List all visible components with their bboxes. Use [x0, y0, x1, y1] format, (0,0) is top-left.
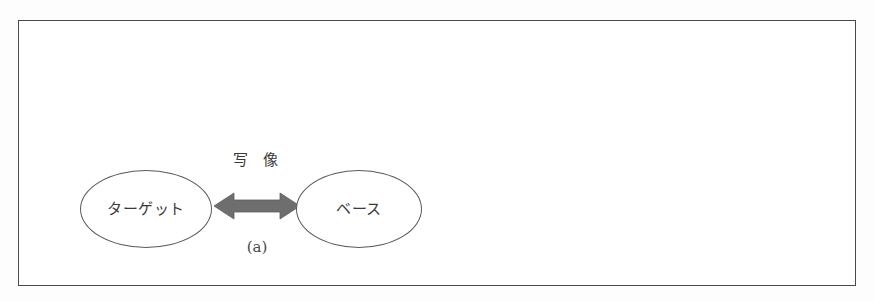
panel-a: ターゲット 写 像 ベース (a): [18, 0, 438, 302]
ellipse-base-a: ベース: [296, 170, 422, 248]
double-headed-horizontal-arrow-icon: [214, 190, 300, 222]
mapping-relation-label: 写 像: [210, 148, 300, 169]
ellipse-target-a: ターゲット: [80, 170, 212, 248]
caption-a: (a): [214, 238, 300, 256]
ellipse-base-a-label: ベース: [336, 202, 382, 217]
ellipse-target-a-label: ターゲット: [107, 202, 185, 217]
panel-b: 抽象化 ターゲット ベース (b): [438, 0, 856, 302]
figure-root: ターゲット 写 像 ベース (a) 抽象化: [0, 0, 874, 302]
